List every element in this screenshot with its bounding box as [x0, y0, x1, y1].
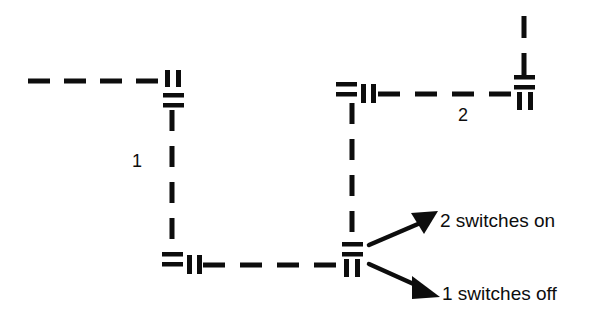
segment-label-1: 1 [132, 152, 142, 170]
arrow-switches-off [369, 264, 440, 299]
segment-label-2: 2 [458, 106, 468, 124]
switch-trajectory-diagram [0, 0, 591, 326]
annotation-switches-off: 1 switches off [442, 284, 557, 303]
arrow-switches-on [369, 211, 438, 245]
corner-top-left-icon [163, 70, 184, 108]
junction-bottom-middle-icon [342, 242, 363, 277]
corner-top-right-icon [514, 75, 535, 110]
annotation-switches-on: 2 switches on [440, 211, 555, 230]
corner-middle-top-icon [336, 82, 376, 103]
corner-bottom-left-icon [162, 252, 202, 274]
diagram-canvas: 1 2 2 switches on 1 switches off [0, 0, 591, 326]
